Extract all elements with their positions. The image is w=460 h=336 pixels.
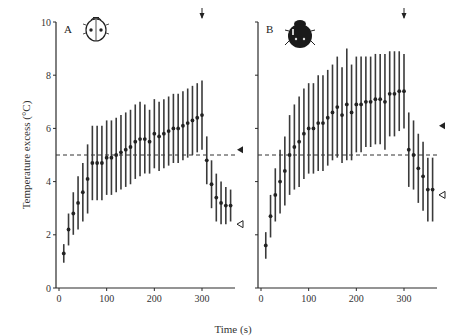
mean-point	[273, 193, 277, 197]
open-triangle-marker-icon	[439, 191, 445, 198]
mean-point	[62, 252, 66, 256]
y-tick-label: 8	[46, 70, 51, 81]
mean-point	[416, 166, 420, 170]
mean-point	[374, 97, 378, 101]
mean-point	[264, 244, 268, 248]
x-tick-label: 0	[259, 293, 264, 304]
mean-point	[326, 116, 330, 120]
mean-point	[359, 103, 363, 107]
x-tick-label: 300	[397, 293, 412, 304]
mean-point	[114, 153, 118, 157]
y-tick-label: 6	[46, 123, 51, 134]
panel-b-data-points	[264, 49, 435, 259]
mean-point	[331, 111, 335, 115]
mean-point	[426, 188, 430, 192]
mean-point	[176, 126, 180, 130]
mean-point	[431, 188, 435, 192]
mean-point	[172, 126, 176, 130]
mean-point	[229, 204, 233, 208]
mean-point	[167, 129, 171, 133]
mean-point	[95, 161, 99, 165]
mean-point	[143, 137, 147, 141]
mean-point	[402, 89, 406, 93]
figure: Temperature excess (°C) Time (s) A 02468…	[0, 0, 460, 336]
mean-point	[302, 132, 306, 136]
mean-point	[105, 156, 109, 160]
mean-point	[86, 177, 90, 181]
mean-point	[321, 121, 325, 125]
mean-point	[90, 161, 94, 165]
filled-triangle-marker-icon	[237, 146, 243, 153]
mean-point	[369, 100, 373, 104]
arrow-down-head	[402, 13, 407, 19]
mean-point	[350, 111, 354, 115]
y-tick-label: 2	[46, 229, 51, 240]
mean-point	[383, 100, 387, 104]
mean-point	[364, 100, 368, 104]
mean-point	[269, 214, 273, 218]
mean-point	[81, 190, 85, 194]
mean-point	[181, 124, 185, 128]
panel-b-axes: 0100200300	[255, 8, 445, 304]
mean-point	[200, 113, 204, 117]
mean-point	[186, 121, 190, 125]
mean-point	[345, 103, 349, 107]
mean-point	[129, 145, 133, 149]
x-tick-label: 200	[147, 293, 162, 304]
filled-triangle-marker-icon	[439, 122, 445, 129]
temperature-excess-chart: Temperature excess (°C) Time (s) A 02468…	[0, 0, 460, 336]
mean-point	[219, 201, 223, 205]
panel-a: A 02468100100200300	[41, 8, 243, 304]
mean-point	[378, 97, 382, 101]
panel-b: B 0100200300	[255, 8, 445, 304]
mean-point	[110, 156, 114, 160]
mean-point	[191, 119, 195, 123]
x-axis-label: Time (s)	[214, 323, 252, 336]
mean-point	[340, 113, 344, 117]
ladybird-dark-icon	[285, 20, 315, 48]
mean-point	[288, 153, 292, 157]
mean-point	[388, 92, 392, 96]
x-tick-label: 300	[195, 293, 210, 304]
x-tick-label: 0	[57, 293, 62, 304]
x-tick-label: 100	[301, 293, 316, 304]
mean-point	[312, 126, 316, 130]
mean-point	[100, 161, 104, 165]
panel-b-letter: B	[266, 23, 273, 35]
mean-point	[67, 228, 71, 232]
mean-point	[138, 137, 142, 141]
open-triangle-marker-icon	[237, 221, 243, 228]
mean-point	[335, 105, 339, 109]
panel-a-letter: A	[64, 23, 72, 35]
y-axis-label: Temperature excess (°C)	[20, 100, 33, 209]
ladybird-light-icon	[83, 17, 109, 41]
mean-point	[71, 212, 75, 216]
mean-point	[292, 145, 296, 149]
y-tick-label: 0	[46, 283, 51, 294]
mean-point	[421, 174, 425, 178]
mean-point	[124, 148, 128, 152]
y-tick-label: 10	[41, 17, 51, 28]
mean-point	[354, 103, 358, 107]
mean-point	[283, 169, 287, 173]
mean-point	[393, 92, 397, 96]
mean-point	[162, 132, 166, 136]
mean-point	[307, 126, 311, 130]
mean-point	[119, 150, 123, 154]
panel-a-axes: 02468100100200300	[41, 8, 243, 304]
mean-point	[214, 196, 218, 200]
mean-point	[157, 134, 161, 138]
mean-point	[210, 182, 214, 186]
mean-point	[148, 140, 152, 144]
mean-point	[297, 140, 301, 144]
x-tick-label: 100	[99, 293, 114, 304]
arrow-down-head	[200, 13, 205, 19]
mean-point	[195, 116, 199, 120]
mean-point	[278, 180, 282, 184]
mean-point	[205, 158, 209, 162]
mean-point	[397, 89, 401, 93]
mean-point	[412, 153, 416, 157]
mean-point	[76, 201, 80, 205]
mean-point	[407, 148, 411, 152]
x-tick-label: 200	[349, 293, 364, 304]
